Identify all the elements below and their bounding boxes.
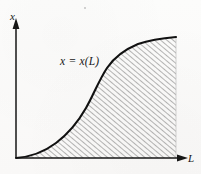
scan-speck (84, 7, 86, 9)
y-axis-label: x (10, 11, 15, 22)
curve-equation-label: x = x(L) (60, 56, 99, 68)
plot-canvas (0, 0, 201, 174)
x-axis-arrowhead (177, 155, 188, 162)
y-axis (13, 18, 20, 158)
hatched-region (0, 0, 201, 174)
x-axis-label: L (188, 153, 194, 164)
figure-container: x L x = x(L) (0, 0, 201, 174)
